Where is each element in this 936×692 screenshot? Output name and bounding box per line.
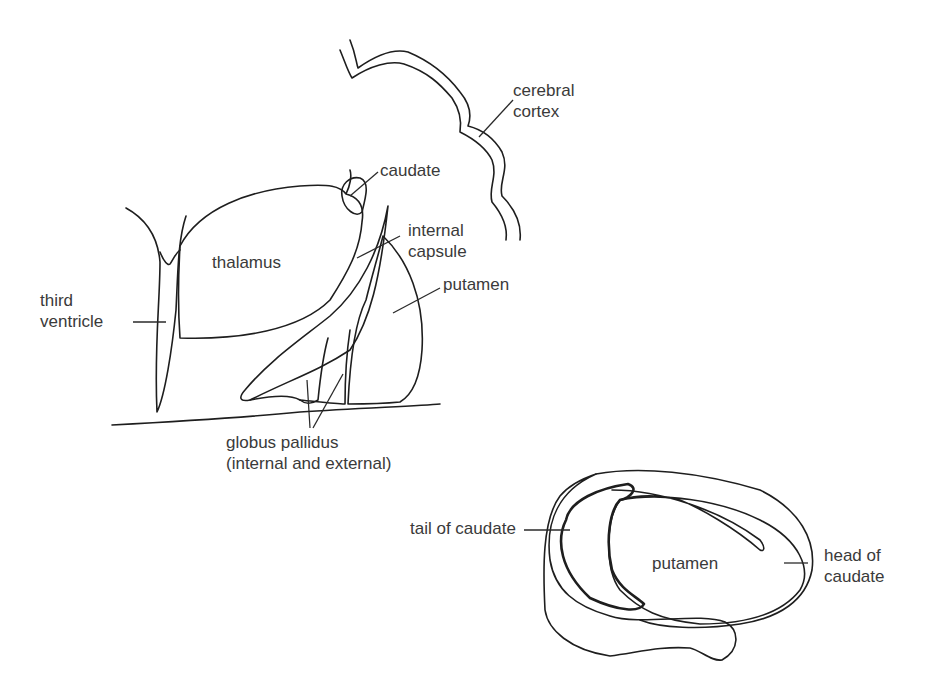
caudate-body-shape	[561, 484, 644, 609]
internal-capsule-shape	[241, 206, 388, 401]
caudate-leader	[350, 172, 378, 196]
globus-pallidus-leader-1	[307, 380, 310, 428]
cerebral-cortex-shape	[340, 40, 520, 240]
caudate-shape	[342, 178, 367, 214]
label-thalamus: thalamus	[212, 252, 281, 273]
diagram-drawing	[0, 0, 936, 692]
label-globus-pallidus: globus pallidus (internal and external)	[226, 432, 391, 474]
basal-ganglia-diagram: cerebral cortex caudate internal capsule…	[0, 0, 936, 692]
label-putamen-top: putamen	[443, 274, 509, 295]
label-putamen-bottom: putamen	[652, 553, 718, 574]
cerebral-cortex-leader	[479, 100, 513, 137]
third-ventricle-shape	[126, 208, 186, 412]
baseline	[112, 404, 440, 425]
label-tail-of-caudate: tail of caudate	[410, 518, 516, 539]
label-third-ventricle: third ventricle	[40, 290, 103, 332]
label-internal-capsule: internal capsule	[408, 220, 467, 262]
label-caudate: caudate	[380, 160, 441, 181]
label-cerebral-cortex: cerebral cortex	[513, 80, 574, 122]
label-head-of-caudate: head of caudate	[824, 545, 885, 587]
